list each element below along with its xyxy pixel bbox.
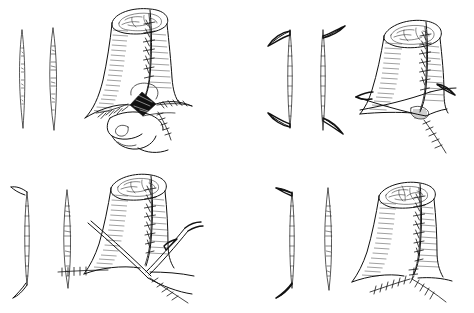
- figure-canvas: [0, 0, 474, 313]
- surgical-figure: Surgical reconstruction technique, four-…: [0, 0, 474, 313]
